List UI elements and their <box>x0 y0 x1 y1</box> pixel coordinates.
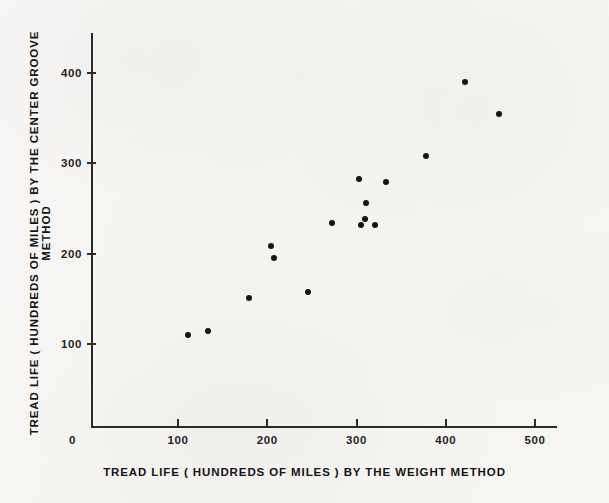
x-tick-mark <box>356 419 358 427</box>
data-point <box>462 79 468 85</box>
x-tick-mark <box>445 419 447 427</box>
data-point <box>329 220 335 226</box>
x-tick-label: 200 <box>257 434 278 446</box>
x-tick-mark <box>177 419 179 427</box>
data-point <box>383 179 389 185</box>
x-tick-label: 400 <box>435 434 456 446</box>
data-point <box>372 222 378 228</box>
data-point <box>496 111 502 117</box>
data-point <box>246 295 252 301</box>
data-point <box>362 216 368 222</box>
y-tick-label: 300 <box>61 157 82 169</box>
x-tick-label: 500 <box>525 434 546 446</box>
y-tick-mark <box>87 253 96 255</box>
y-tick-mark <box>87 72 96 74</box>
x-tick-mark <box>266 419 268 427</box>
x-axis-origin-label: 0 <box>69 434 75 446</box>
scatter-plot-figure: 100200300400500 100200300400 0 TREAD LIF… <box>0 0 609 503</box>
data-point <box>205 328 211 334</box>
x-tick-label: 300 <box>346 434 367 446</box>
y-tick-label: 100 <box>61 338 82 350</box>
y-axis-title: TREAD LIFE ( HUNDREDS OF MILES ) BY THE … <box>28 23 52 443</box>
x-axis-line <box>91 426 557 428</box>
plot-area: 100200300400500 100200300400 0 <box>0 0 609 503</box>
y-tick-label: 200 <box>61 248 82 260</box>
x-tick-mark <box>534 419 536 427</box>
y-axis-line <box>91 33 93 428</box>
x-tick-label: 100 <box>168 434 189 446</box>
data-point <box>305 289 311 295</box>
data-point <box>423 153 429 159</box>
y-tick-mark <box>87 162 96 164</box>
data-point <box>185 332 191 338</box>
data-point <box>363 200 369 206</box>
x-axis-title: TREAD LIFE ( HUNDREDS OF MILES ) BY THE … <box>0 466 609 478</box>
y-tick-label: 400 <box>61 67 82 79</box>
y-tick-mark <box>87 343 96 345</box>
data-point <box>268 243 274 249</box>
data-point <box>358 222 364 228</box>
data-point <box>356 176 362 182</box>
data-point <box>271 255 277 261</box>
